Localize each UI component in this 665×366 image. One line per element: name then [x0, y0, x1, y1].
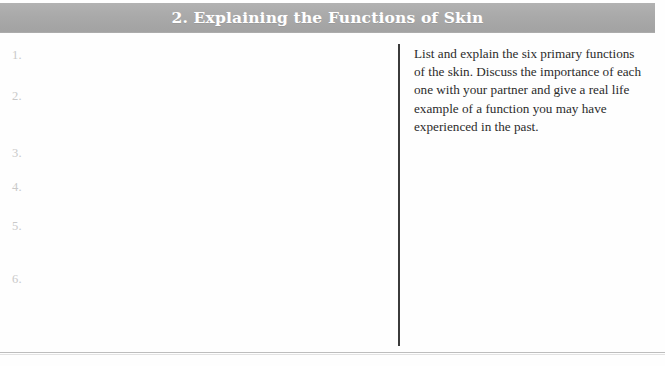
list-item: 6. — [12, 272, 22, 286]
answer-list: 1. 2. 3. 4. 5. 6. — [0, 33, 398, 353]
list-item: 5. — [12, 219, 22, 233]
column-divider — [398, 44, 400, 346]
list-item: 1. — [12, 48, 22, 62]
list-item: 2. — [12, 89, 22, 103]
section-header-bar: 2. Explaining the Functions of Skin — [0, 3, 655, 33]
instruction-text: List and explain the six primary functio… — [414, 45, 642, 136]
instruction-panel: List and explain the six primary functio… — [414, 45, 642, 136]
list-item: 4. — [12, 180, 22, 194]
worksheet-body: 1. 2. 3. 4. 5. 6. List and explain the s… — [0, 33, 665, 353]
footer-rule-soft — [0, 354, 665, 355]
footer-rule — [0, 352, 665, 353]
worksheet-page: 2. Explaining the Functions of Skin 1. 2… — [0, 0, 665, 366]
page-title: 2. Explaining the Functions of Skin — [0, 3, 655, 33]
list-item: 3. — [12, 146, 22, 160]
